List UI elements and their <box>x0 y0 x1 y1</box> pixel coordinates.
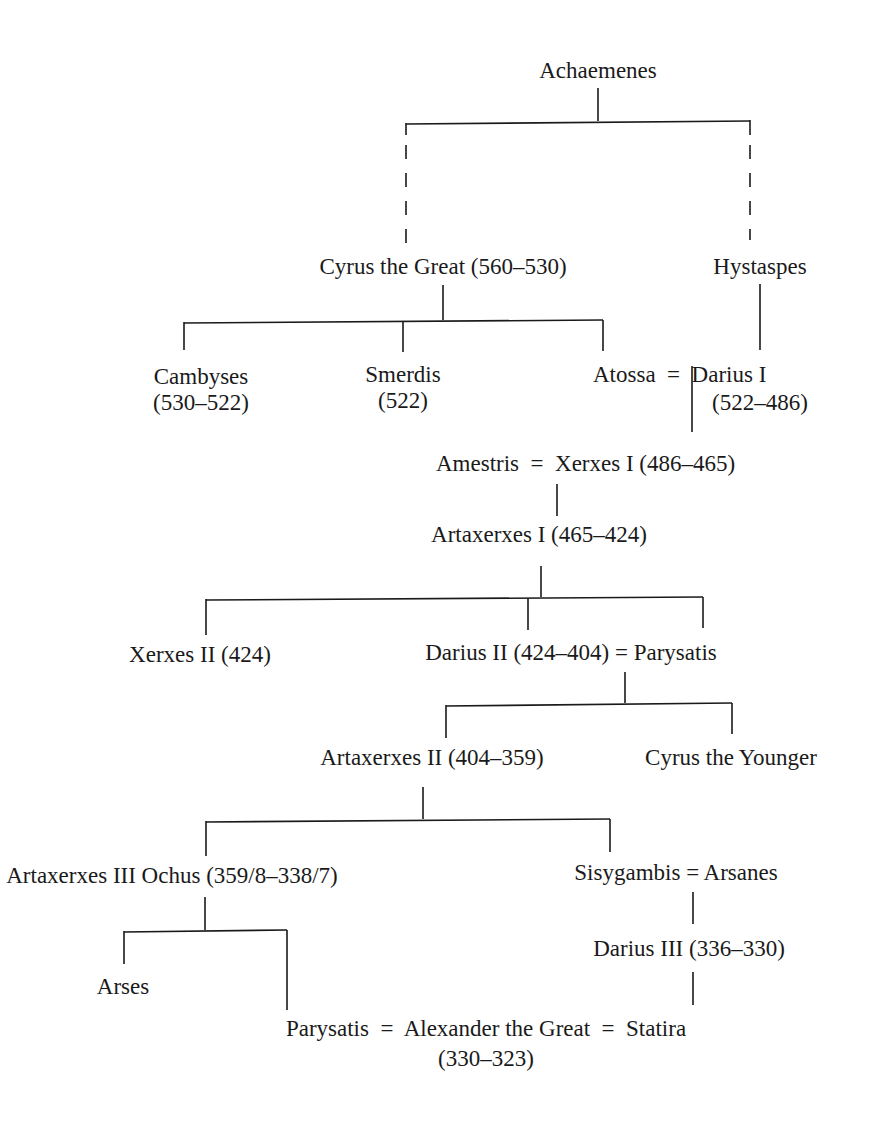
node-smerdis: Smerdis (522) <box>365 362 440 414</box>
node-cyrus-the-younger: Cyrus the Younger <box>645 745 817 771</box>
node-xerxes-ii: Xerxes II (424) <box>129 642 271 668</box>
node-darius-i-dates: (522–486) <box>712 390 808 416</box>
smerdis-name: Smerdis <box>365 362 440 388</box>
node-atossa-darius-i: Atossa = Darius I <box>593 362 766 388</box>
node-artaxerxes-iii-ochus: Artaxerxes III Ochus (359/8–338/7) <box>6 863 338 889</box>
node-cambyses: Cambyses (530–522) <box>153 364 249 416</box>
node-darius-ii-parysatis: Darius II (424–404) = Parysatis <box>425 640 716 666</box>
tree-connector-lines <box>0 0 882 1135</box>
node-arses: Arses <box>97 974 149 1000</box>
cambyses-name: Cambyses <box>153 364 249 390</box>
node-sisygambis-arsanes: Sisygambis = Arsanes <box>574 860 777 886</box>
node-darius-iii: Darius III (336–330) <box>593 936 785 962</box>
node-artaxerxes-ii: Artaxerxes II (404–359) <box>320 745 544 771</box>
node-cyrus-the-great: Cyrus the Great (560–530) <box>319 254 566 280</box>
family-tree-diagram: Achaemenes Cyrus the Great (560–530) Hys… <box>0 0 882 1135</box>
node-amestris-xerxes-i: Amestris = Xerxes I (486–465) <box>436 451 735 477</box>
node-hystaspes: Hystaspes <box>713 254 806 280</box>
node-achaemenes: Achaemenes <box>539 58 657 84</box>
node-alexander-dates: (330–323) <box>438 1046 534 1072</box>
node-artaxerxes-i: Artaxerxes I (465–424) <box>431 522 647 548</box>
cambyses-dates: (530–522) <box>153 390 249 416</box>
smerdis-dates: (522) <box>365 388 440 414</box>
node-parysatis-alexander-statira: Parysatis = Alexander the Great = Statir… <box>286 1016 686 1042</box>
